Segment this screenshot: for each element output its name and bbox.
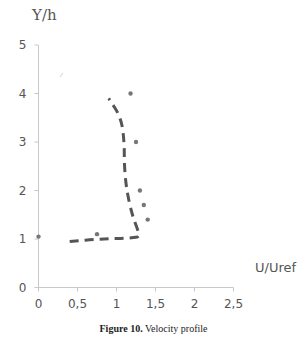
stray-mark (60, 73, 63, 77)
figure-caption: Figure 10. Velocity profile (0, 323, 307, 334)
x-tick-label: 2,5 (224, 297, 243, 311)
x-tick-label: 0 (35, 297, 43, 311)
data-point-measured (134, 140, 138, 144)
figure-caption-label: Figure 10. (100, 323, 143, 334)
y-tick-label: 5 (19, 38, 27, 52)
plot-marks (36, 73, 150, 241)
data-point-measured (142, 203, 146, 207)
figure-caption-text: Velocity profile (143, 323, 208, 334)
velocity-profile-chart: 00,511,522,5012345 Y/h U/Uref (0, 0, 307, 320)
data-point-measured (146, 217, 150, 221)
data-point-measured (95, 232, 99, 236)
y-tick-label: 4 (19, 87, 27, 101)
x-tick-label: 2 (191, 297, 199, 311)
x-axis-label: U/Uref (255, 260, 296, 275)
y-tick-label: 2 (19, 184, 27, 198)
dashed-curve-computed (70, 98, 139, 241)
x-tick-label: 1,5 (146, 297, 165, 311)
data-point-measured (138, 188, 142, 192)
axes: 00,511,522,5012345 (19, 38, 243, 311)
y-axis-label: Y/h (31, 6, 57, 24)
x-tick-label: 0,5 (68, 297, 87, 311)
y-tick-label: 3 (19, 135, 27, 149)
data-point-measured (128, 91, 132, 95)
x-tick-label: 1 (113, 297, 121, 311)
y-tick-label: 1 (19, 232, 27, 246)
y-tick-label: 0 (19, 281, 27, 295)
data-point-measured (36, 234, 40, 238)
